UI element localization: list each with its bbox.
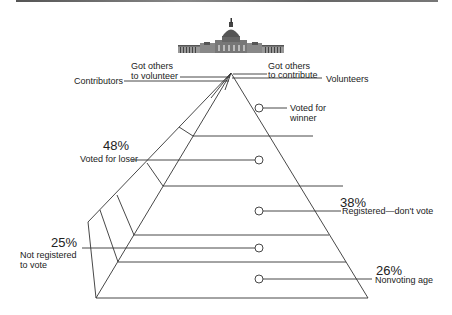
label-got-others-volunteer-2: to volunteer <box>131 71 178 81</box>
side-facet-3 <box>117 195 134 235</box>
percent-not-registered: 25% <box>51 236 77 249</box>
label-voted-winner-2: winner <box>290 113 317 123</box>
label-registered: Registered—don't vote <box>342 206 433 216</box>
percent-voted-loser: 48% <box>103 139 129 152</box>
front-left-edge <box>96 73 231 298</box>
label-voted-loser: Voted for loser <box>80 154 138 164</box>
back-vertical-edge <box>88 222 96 298</box>
tier-marker-registered <box>255 207 263 215</box>
label-contributors: Contributors <box>74 76 123 86</box>
label-volunteers: Volunteers <box>326 74 369 84</box>
tier-marker-winner <box>255 104 263 112</box>
side-facet-1 <box>179 127 193 136</box>
side-facet-2 <box>147 163 163 186</box>
label-got-others-contribute-2: to contribute <box>268 70 318 80</box>
capitol-building-icon <box>178 18 284 53</box>
label-not-registered-1: Not registered <box>20 250 77 260</box>
tier-marker-loser <box>255 156 263 164</box>
label-voted-winner-1: Voted for <box>290 103 326 113</box>
side-facet-4 <box>100 210 118 262</box>
label-nonvoting: Nonvoting age <box>375 275 433 285</box>
label-not-registered-2: to vote <box>20 260 47 270</box>
tier-marker-nonvoting <box>255 275 263 283</box>
label-got-others-volunteer-1: Got others <box>131 61 173 71</box>
tier-marker-not-registered <box>255 244 263 252</box>
